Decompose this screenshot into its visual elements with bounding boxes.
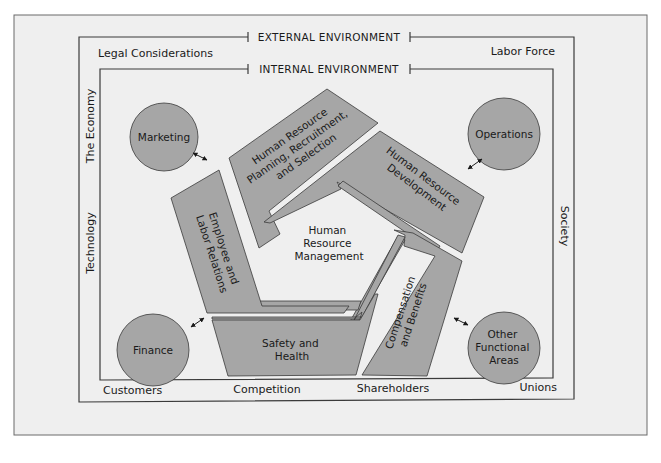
factor-technology: Technology: [84, 212, 97, 275]
hrm-environment-diagram: EXTERNAL ENVIRONMENT INTERNAL ENVIRONMEN…: [0, 0, 661, 463]
factor-unions: Unions: [519, 381, 557, 394]
factor-the-economy: The Economy: [84, 88, 97, 164]
factor-shareholders: Shareholders: [357, 382, 430, 395]
factor-labor-force: Labor Force: [491, 45, 556, 58]
external-environment-header: EXTERNAL ENVIRONMENT: [258, 31, 401, 43]
factor-legal-considerations: Legal Considerations: [98, 47, 213, 60]
unit-finance-label: Finance: [133, 344, 173, 356]
internal-environment-header: INTERNAL ENVIRONMENT: [259, 63, 399, 75]
factor-society: Society: [558, 206, 571, 247]
unit-marketing-label: Marketing: [138, 131, 190, 143]
diagram-canvas: EXTERNAL ENVIRONMENT INTERNAL ENVIRONMEN…: [0, 0, 661, 463]
unit-operations-label: Operations: [475, 128, 533, 140]
factor-competition: Competition: [233, 383, 300, 396]
